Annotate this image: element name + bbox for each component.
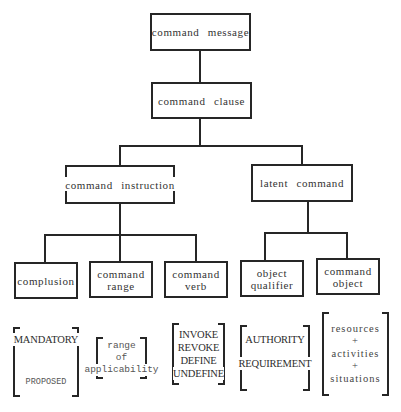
instruction-right-edge-top [173,165,175,177]
node-label-line1: command [172,268,220,280]
valueset-complusion: MANDATORY PROPOSED [13,327,79,397]
value-requirement: REQUIREMENT [238,357,311,370]
node-label-line1: object [257,267,287,279]
node-label: command clause [158,95,245,107]
value-applicability: applicability [84,364,158,376]
value-range: range [107,340,136,352]
value-activities: activities [332,348,380,361]
edge-to-range [119,234,121,262]
edge-clause-bar [119,145,303,147]
valueset-qualifier: AUTHORITY REQUIREMENT [240,325,310,391]
node-label-line2: range [107,280,134,292]
valueset-object: resources + activities + situations [322,312,389,396]
instruction-left-edge-top [65,165,67,177]
value-situations: situations [330,373,380,386]
edge-to-latent [301,145,303,165]
edge-to-verb [195,234,197,262]
node-label-line1: command [324,265,372,277]
value-undefine: UNDEFINE [173,367,224,380]
node-label-line2: qualifier [251,279,294,291]
edge-instruction-down [119,203,121,236]
edge-latent-bar [264,232,348,234]
node-latent-command: latent command [251,164,353,202]
node-command-range: command range [89,261,153,298]
node-label-line1: command [97,268,145,280]
node-label: command instruction [65,179,175,191]
value-invoke: INVOKE [179,328,218,341]
valueset-range: range of applicability [96,337,147,379]
edge-to-qualifier [264,232,266,261]
node-label-line2: verb [185,280,207,292]
value-authority: AUTHORITY [245,333,304,346]
node-command-verb: command verb [164,261,228,298]
node-command-instruction: command instruction [65,165,175,204]
valueset-verb: INVOKE REVOKE DEFINE UNDEFINE [172,323,225,385]
node-label: command message [152,26,249,38]
value-of: of [116,352,127,364]
plus-sign: + [352,360,359,373]
instruction-left-edge-bottom [65,191,67,204]
node-label: complusion [17,275,74,287]
node-object-qualifier: object qualifier [240,260,304,297]
edge-clause-down [199,118,201,147]
node-label: latent command [260,177,344,189]
node-command-object: command object [316,258,380,295]
node-complusion: complusion [14,262,78,299]
node-command-clause: command clause [151,82,252,119]
value-resources: resources [331,323,380,336]
edge-latent-down [307,201,309,233]
edge-to-object [346,232,348,259]
node-command-message: command message [150,13,251,51]
edge-to-complusion [44,234,46,263]
edge-root-clause [199,50,201,83]
plus-sign: + [352,335,359,348]
node-label-line2: object [333,277,363,289]
value-proposed: PROPOSED [26,376,67,389]
instruction-right-edge-bottom [173,191,175,204]
value-revoke: REVOKE [178,341,219,354]
value-mandatory: MANDATORY [13,333,80,346]
value-define: DEFINE [180,354,216,367]
edge-to-instruction [119,145,121,166]
